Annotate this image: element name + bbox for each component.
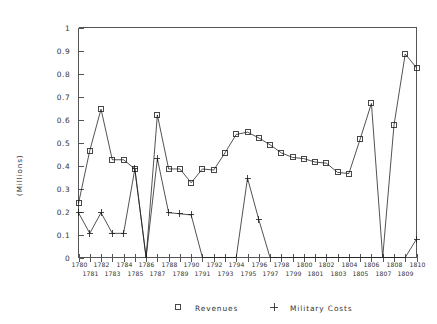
- legend-label-revenues: Revenues: [195, 304, 238, 313]
- y-tick-label: 0.3: [57, 185, 71, 194]
- x-tick-label: 1796: [251, 261, 267, 268]
- x-tick-label: 1802: [318, 261, 334, 268]
- data-point-marker: [256, 216, 262, 223]
- y-tick-label: 0.7: [57, 93, 71, 102]
- x-axis-ticks: 1780178117821783178417851786178717881789…: [71, 254, 425, 277]
- series-revenues: [76, 51, 419, 257]
- x-tick-label: 1789: [172, 270, 188, 277]
- chart-legend: Revenues Military Costs: [176, 303, 353, 313]
- data-point-marker: [188, 211, 194, 218]
- x-tick-label: 1794: [228, 261, 244, 268]
- series-military-costs: [76, 155, 420, 257]
- y-tick-label: 0.6: [57, 116, 71, 125]
- y-tick-label: 0.8: [57, 70, 71, 79]
- x-tick-label: 1800: [296, 261, 312, 268]
- x-tick-label: 1787: [149, 270, 165, 277]
- axes: [79, 28, 417, 258]
- y-axis-label: (Millions): [15, 155, 24, 197]
- legend-square-icon: [176, 305, 181, 310]
- chart-container: (Millions) 00.10.20.30.40.50.60.70.80.91…: [0, 0, 437, 324]
- data-point-marker: [166, 209, 172, 216]
- x-tick-label: 1803: [330, 270, 346, 277]
- data-point-marker: [76, 209, 82, 216]
- data-series: [76, 51, 420, 257]
- x-tick-label: 1788: [161, 261, 177, 268]
- y-tick-label: 0.9: [57, 47, 71, 56]
- y-tick-label: 1: [65, 24, 70, 33]
- x-tick-label: 1807: [375, 270, 391, 277]
- series-polyline: [79, 159, 417, 258]
- x-tick-label: 1810: [409, 261, 425, 268]
- svg-text:(Millions): (Millions): [15, 155, 24, 197]
- x-tick-label: 1793: [217, 270, 233, 277]
- y-tick-label: 0.1: [57, 231, 71, 240]
- x-tick-label: 1784: [116, 261, 132, 268]
- data-point-marker: [154, 155, 160, 162]
- x-tick-label: 1805: [352, 270, 368, 277]
- y-tick-label: 0.4: [57, 162, 71, 171]
- x-tick-label: 1801: [307, 270, 323, 277]
- x-tick-label: 1809: [397, 270, 413, 277]
- x-tick-label: 1782: [93, 261, 109, 268]
- data-point-marker: [98, 209, 104, 216]
- legend-label-military-costs: Military Costs: [290, 304, 353, 313]
- x-tick-label: 1798: [273, 261, 289, 268]
- x-tick-label: 1791: [194, 270, 210, 277]
- data-point-marker: [109, 230, 115, 237]
- data-point-marker: [87, 230, 93, 237]
- y-tick-label: 0: [65, 254, 70, 263]
- data-point-marker: [177, 210, 183, 217]
- x-tick-label: 1795: [240, 270, 256, 277]
- y-tick-label: 0.2: [57, 208, 71, 217]
- data-point-marker: [121, 230, 127, 237]
- y-tick-label: 0.5: [57, 139, 71, 148]
- x-tick-label: 1781: [82, 270, 98, 277]
- legend-plus-icon: [270, 303, 278, 311]
- x-tick-label: 1804: [341, 261, 357, 268]
- x-tick-label: 1799: [285, 270, 301, 277]
- x-tick-label: 1785: [127, 270, 143, 277]
- x-tick-label: 1780: [71, 261, 87, 268]
- x-tick-label: 1792: [206, 261, 222, 268]
- series-polyline: [79, 54, 417, 258]
- x-tick-label: 1786: [138, 261, 154, 268]
- x-tick-label: 1808: [386, 261, 402, 268]
- data-point-marker: [245, 175, 251, 182]
- x-tick-label: 1797: [262, 270, 278, 277]
- y-axis-ticks: 00.10.20.30.40.50.60.70.80.91: [57, 24, 84, 263]
- line-chart: (Millions) 00.10.20.30.40.50.60.70.80.91…: [0, 0, 437, 324]
- x-tick-label: 1790: [183, 261, 199, 268]
- x-tick-label: 1806: [363, 261, 379, 268]
- x-tick-label: 1783: [104, 270, 120, 277]
- data-point-marker: [414, 236, 420, 243]
